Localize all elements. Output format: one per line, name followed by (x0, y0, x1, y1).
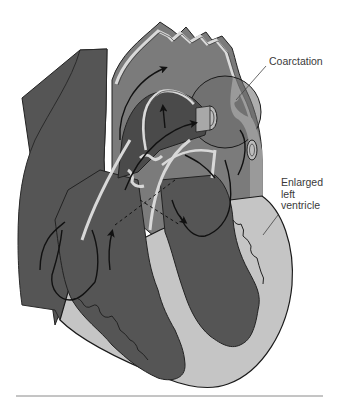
enlarged-left-ventricle-label: Enlarged left ventricle (281, 177, 341, 212)
pulmonary-vein-cylinder (247, 140, 257, 160)
lv-label-line-3: ventricle (281, 200, 341, 212)
lv-label-line-1: Enlarged (281, 177, 341, 189)
coarctation-label: Coarctation (269, 56, 323, 68)
